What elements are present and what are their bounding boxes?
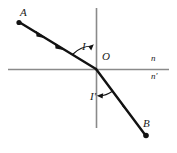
label-angle-incidence: I [82,41,86,52]
label-origin: O [102,51,110,62]
angle-of-refraction-arrowhead [97,93,103,98]
label-point-a: A [20,7,27,18]
label-medium-upper: n [151,54,156,63]
label-point-b: B [143,118,150,129]
angle-of-incidence-arrowhead [88,44,93,50]
refraction-diagram: A I O n n' I' B [0,0,177,153]
point-b-dot [143,133,149,139]
label-medium-lower: n' [151,72,157,81]
label-angle-refraction: I' [90,91,96,102]
point-a-dot [16,20,21,25]
